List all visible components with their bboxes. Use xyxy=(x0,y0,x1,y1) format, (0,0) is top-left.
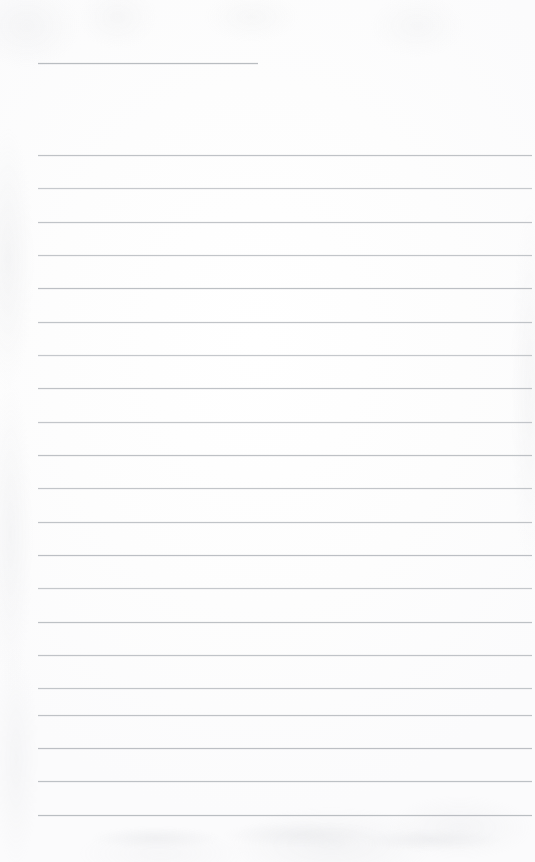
rule-line xyxy=(38,655,532,656)
rule-line xyxy=(38,322,532,323)
scanned-page xyxy=(0,0,535,862)
rule-line xyxy=(38,422,532,423)
rule-line xyxy=(38,555,532,556)
rule-line xyxy=(38,715,532,716)
rule-line xyxy=(38,622,532,623)
rule-line xyxy=(38,455,532,456)
rule-line xyxy=(38,815,532,816)
rule-line xyxy=(38,488,532,489)
rule-line xyxy=(38,188,532,189)
rule-line xyxy=(38,588,532,589)
rule-line xyxy=(38,688,532,689)
rule-line xyxy=(38,255,532,256)
rule-line xyxy=(38,781,532,782)
ruled-lines-layer xyxy=(0,0,535,862)
rule-line xyxy=(38,288,532,289)
rule-line xyxy=(38,748,532,749)
rule-line xyxy=(38,155,532,156)
rule-line xyxy=(38,355,532,356)
header-rule-line xyxy=(38,63,258,64)
rule-line xyxy=(38,222,532,223)
rule-line xyxy=(38,388,532,389)
rule-line xyxy=(38,522,532,523)
